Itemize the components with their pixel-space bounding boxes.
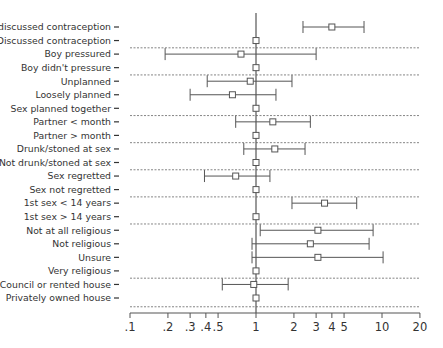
reference-marker [253,187,259,193]
row-label: Discussed contraception [0,35,111,46]
row-label: Not drunk/stoned at sex [0,157,111,168]
row-label: Sex regretted [48,170,112,181]
forest-row: Council or rented house [0,278,288,290]
forest-row: Not drunk/stoned at sex [0,157,259,168]
forest-row: Unsure [78,251,383,263]
row-label: Partner < month [33,116,111,127]
x-tick-label: 5 [340,320,347,334]
forest-row: 1st sex < 14 years [24,197,357,209]
row-label: Not at all religious [26,225,111,236]
forest-plot: Not discussed contraceptionDiscussed con… [0,0,443,348]
forest-row: Sex regretted [48,170,270,182]
estimate-marker [247,78,253,84]
row-label: Boy pressured [44,48,111,59]
row-label: Unplanned [61,76,111,87]
estimate-marker [329,24,335,30]
estimate-marker [251,281,257,287]
forest-row: Boy pressured [44,48,316,60]
row-label: Very religious [48,265,111,276]
estimate-marker [315,254,321,260]
estimate-marker [270,119,276,125]
reference-marker [253,295,259,301]
row-label: Council or rented house [0,279,111,290]
reference-marker [253,65,259,71]
forest-row: Sex planned together [11,103,260,114]
forest-row: Privately owned house [6,292,259,303]
row-label: Boy didn't pressure [21,62,111,73]
x-tick-label: 2 [290,320,297,334]
row-label: 1st sex < 14 years [24,197,111,208]
forest-row: 1st sex > 14 years [24,211,259,222]
x-tick-label: 20 [413,320,428,334]
forest-row: Discussed contraception [0,35,259,46]
row-label: Drunk/stoned at sex [17,143,112,154]
row-label: Not religious [52,238,111,249]
forest-row: Partner > month [33,130,259,141]
x-tick-label: .2 [162,320,173,334]
estimate-marker [307,241,313,247]
forest-row: Loosely planned [35,89,276,101]
reference-marker [253,160,259,166]
row-label: Partner > month [33,130,111,141]
estimate-marker [322,200,328,206]
row-label: Sex planned together [11,103,112,114]
rows: Not discussed contraceptionDiscussed con… [0,21,383,303]
reference-marker [253,268,259,274]
x-tick-label: 3 [312,320,319,334]
estimate-marker [238,51,244,57]
reference-marker [253,132,259,138]
forest-row: Unplanned [61,75,292,87]
x-tick-label: 10 [375,320,390,334]
forest-row: Sex not regretted [29,184,259,195]
row-label: 1st sex > 14 years [24,211,111,222]
reference-marker [253,38,259,44]
forest-row: Drunk/stoned at sex [17,143,305,155]
reference-marker [253,105,259,111]
x-tick-label: 1 [252,320,259,334]
x-tick-label: .4 [200,320,211,334]
forest-row: Not religious [52,238,369,250]
estimate-marker [233,173,239,179]
forest-row: Not at all religious [26,224,373,236]
group-separators [130,48,420,307]
estimate-marker [272,146,278,152]
forest-row: Not discussed contraception [0,21,364,33]
row-label: Unsure [78,252,111,263]
forest-row: Partner < month [33,116,310,128]
x-tick-label: 4 [328,320,335,334]
row-label: Not discussed contraception [0,21,111,32]
x-axis: .1.2.3.4.5123451020 [125,313,428,334]
row-label: Sex not regretted [29,184,111,195]
estimate-marker [315,227,321,233]
row-label: Loosely planned [35,89,111,100]
x-tick-label: .5 [213,320,224,334]
reference-marker [253,214,259,220]
estimate-marker [229,92,235,98]
x-tick-label: .3 [185,320,196,334]
row-label: Privately owned house [6,292,112,303]
forest-row: Very religious [48,265,259,276]
x-tick-label: .1 [125,320,136,334]
forest-row: Boy didn't pressure [21,62,259,73]
